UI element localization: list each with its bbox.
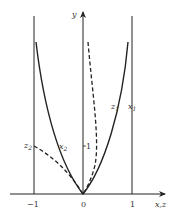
svg-text:z2: z2 bbox=[23, 141, 32, 151]
x-axis-label: x,z bbox=[155, 200, 167, 209]
svg-text:z1: z1 bbox=[110, 102, 119, 112]
label-x2: x2 bbox=[59, 142, 68, 152]
curve-z1 bbox=[83, 42, 97, 194]
label-x1: x1 bbox=[128, 102, 136, 112]
y-axis-label: y bbox=[71, 10, 77, 19]
x-tick-0: 0 bbox=[81, 200, 86, 209]
svg-text:x2: x2 bbox=[59, 142, 68, 152]
x-tick-1: 1 bbox=[130, 200, 135, 209]
diagram-canvas: y x,z −1 0 1 1 z1 x1 z2 x2 bbox=[0, 0, 179, 221]
curve-x1-x2 bbox=[36, 42, 128, 194]
x-tick-neg1: −1 bbox=[27, 200, 39, 209]
label-z2: z2 bbox=[23, 141, 32, 151]
curve-z2 bbox=[34, 146, 83, 194]
label-z1: z1 bbox=[110, 102, 119, 112]
svg-text:x1: x1 bbox=[128, 102, 136, 112]
y-tick-label-1: 1 bbox=[86, 142, 91, 151]
